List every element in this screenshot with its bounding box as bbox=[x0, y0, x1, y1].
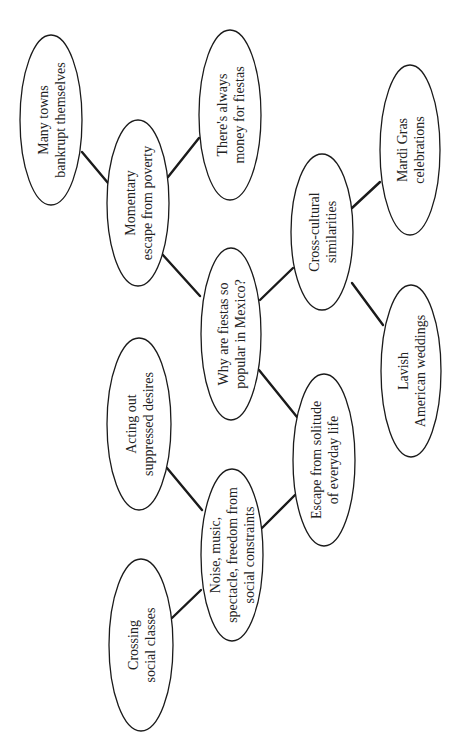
node-ellipse bbox=[107, 120, 169, 286]
node-label-line: Cross-cultural bbox=[307, 192, 322, 271]
node-label-line: bankrupt themselves bbox=[53, 62, 68, 177]
node-crossing: Crossingsocial classes bbox=[109, 559, 173, 731]
connector-momentary-to-always-money bbox=[168, 138, 199, 177]
node-ellipse bbox=[20, 35, 82, 205]
node-ellipse bbox=[199, 30, 261, 200]
node-label-line: Crossing bbox=[126, 620, 141, 670]
node-ellipse bbox=[293, 374, 355, 546]
node-label-line: celebrations bbox=[412, 116, 427, 184]
node-ellipse bbox=[107, 338, 171, 510]
connector-crossing-to-noise-music bbox=[172, 590, 201, 618]
node-label-line: Why are fiestas so bbox=[216, 282, 231, 385]
node-label-line: American weddings bbox=[413, 315, 428, 427]
node-label-line: Mardi Gras bbox=[395, 118, 410, 182]
node-label-line: social classes bbox=[143, 607, 158, 682]
connector-why-to-cross-cultural bbox=[260, 268, 293, 300]
connector-acting-out-to-noise-music bbox=[167, 468, 202, 510]
node-label-line: popular in Mexico? bbox=[233, 279, 248, 389]
node-label-line: suppressed desires bbox=[141, 372, 156, 476]
connector-cross-cultural-to-mardi-gras bbox=[352, 182, 380, 208]
node-label-line: There's always bbox=[215, 74, 230, 157]
node-ellipse bbox=[201, 248, 261, 420]
node-momentary: Momentaryescape from poverty bbox=[107, 120, 169, 286]
nodes-layer: Why are fiestas sopopular in Mexico?Mome… bbox=[20, 30, 441, 731]
connector-why-to-escape-solitude bbox=[259, 370, 297, 417]
connector-momentary-to-why bbox=[162, 254, 200, 296]
node-noise-music: Noise, music,spectacle, freedom fromsoci… bbox=[201, 469, 263, 641]
node-label-line: Acting out bbox=[124, 394, 139, 454]
node-label-line: money for fiestas bbox=[232, 66, 247, 163]
cluster-diagram: Why are fiestas sopopular in Mexico?Mome… bbox=[0, 0, 455, 748]
node-label-line: social constraints bbox=[242, 507, 257, 604]
node-why: Why are fiestas sopopular in Mexico? bbox=[201, 248, 261, 420]
node-ellipse bbox=[380, 65, 440, 235]
node-label-line: Escape from solitude bbox=[309, 401, 324, 519]
node-label-line: Momentary bbox=[123, 170, 138, 235]
node-ellipse bbox=[291, 154, 353, 310]
node-many-towns: Many townsbankrupt themselves bbox=[20, 35, 82, 205]
connector-escape-solitude-to-noise-music bbox=[262, 495, 295, 528]
node-label-line: similarities bbox=[324, 201, 339, 263]
node-label-line: Noise, music, bbox=[208, 517, 223, 594]
node-mardi-gras: Mardi Grascelebrations bbox=[380, 65, 440, 235]
node-label-line: Many towns bbox=[36, 85, 51, 155]
connector-cross-cultural-to-lavish bbox=[352, 283, 383, 325]
connector-many-towns-to-momentary bbox=[82, 152, 108, 183]
node-label-line: spectacle, freedom from bbox=[225, 487, 240, 623]
node-label-line: escape from poverty bbox=[140, 146, 155, 260]
node-ellipse bbox=[381, 285, 441, 457]
node-label-line: of everyday life bbox=[326, 416, 341, 505]
node-lavish: LavishAmerican weddings bbox=[381, 285, 441, 457]
node-cross-cultural: Cross-culturalsimilarities bbox=[291, 154, 353, 310]
node-ellipse bbox=[109, 559, 173, 731]
node-escape-solitude: Escape from solitudeof everyday life bbox=[293, 374, 355, 546]
node-always-money: There's alwaysmoney for fiestas bbox=[199, 30, 261, 200]
node-acting-out: Acting outsuppressed desires bbox=[107, 338, 171, 510]
node-label-line: Lavish bbox=[396, 352, 411, 390]
